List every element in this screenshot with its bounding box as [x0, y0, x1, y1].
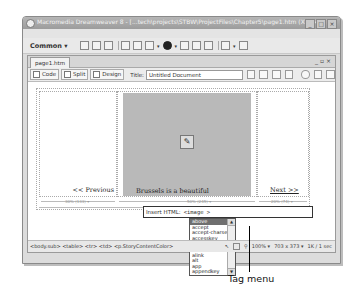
previous-link[interactable]: << Previous [73, 186, 114, 194]
image-placeholder-icon: ✎ [180, 135, 194, 149]
email-link-icon[interactable] [92, 41, 101, 50]
div-icon[interactable] [133, 41, 142, 50]
callout-label: Tag menu [228, 273, 274, 284]
table-cell-middle[interactable]: ✎ Brussels is a beautiful [117, 91, 257, 197]
maximize-button[interactable]: □ [316, 19, 326, 29]
design-canvas[interactable]: << Previous ✎ Brussels is a beautiful Ne… [28, 82, 335, 240]
insert-bar: Common ▾ ▾ ▾ ▾ [23, 38, 340, 54]
template-icon[interactable] [221, 41, 230, 50]
code-view-button[interactable]: Code [30, 69, 59, 80]
app-logo-icon [26, 19, 35, 28]
tag-menu-item[interactable]: appendkey [190, 269, 227, 275]
chevron-down-icon[interactable]: ▾ [157, 43, 160, 49]
server-include-icon[interactable] [192, 41, 201, 50]
status-bar: <body.sub> <table> <tr> <td> <p.StoryCon… [28, 240, 335, 252]
menu-bar: File Edit View Insert Modify Text Comman… [23, 29, 340, 38]
refresh-icon[interactable] [301, 70, 310, 79]
document-tab[interactable]: page1.htm [30, 57, 70, 68]
chevron-down-icon[interactable]: ▾ [175, 43, 178, 49]
hand-tool-icon[interactable] [233, 243, 240, 250]
table-icon[interactable] [121, 41, 130, 50]
document-toolbar: Code Split Design Title: Untitled Docume… [28, 68, 335, 82]
named-anchor-icon[interactable] [104, 41, 113, 50]
document-window: page1.htm _ ▫ × Code Split Design Title:… [27, 55, 336, 253]
minimize-button[interactable]: _ [305, 19, 315, 29]
document-window-controls[interactable]: _ ▫ × [315, 57, 331, 64]
preview-browser-icon[interactable] [259, 70, 268, 79]
design-view-icon [93, 71, 100, 78]
date-icon[interactable] [180, 41, 189, 50]
scroll-up-icon[interactable]: ▲ [228, 219, 235, 226]
zoom-tool-icon[interactable]: ⚲ [244, 241, 248, 252]
media-icon[interactable] [163, 41, 172, 50]
title-bar: Macromedia Dreamweaver 8 - [...tech\proj… [23, 17, 340, 29]
callout-line [249, 226, 250, 272]
split-view-icon [64, 71, 71, 78]
comment-icon[interactable] [204, 41, 213, 50]
tag-selector[interactable]: <body.sub> <table> <tr> <td> <p.StoryCon… [30, 241, 173, 252]
tag-chooser-icon[interactable] [239, 41, 248, 50]
toolbar-divider [218, 41, 219, 50]
dreamweaver-window: Macromedia Dreamweaver 8 - [...tech\proj… [22, 16, 341, 264]
split-view-button[interactable]: Split [61, 69, 88, 80]
select-tool-icon[interactable]: ↖ [225, 241, 229, 252]
insert-html-label: Insert HTML: [146, 209, 181, 215]
insert-html-input[interactable]: <image > [184, 209, 211, 215]
table-cell-right[interactable]: Next >> [257, 91, 309, 197]
validate-markup-icon[interactable] [272, 70, 281, 79]
view-options-icon[interactable] [314, 70, 323, 79]
title-input[interactable]: Untitled Document [146, 70, 243, 80]
chevron-down-icon[interactable]: ▾ [233, 43, 236, 49]
visual-aids-icon[interactable] [326, 70, 335, 79]
image-icon[interactable] [145, 41, 154, 50]
close-button[interactable]: × [327, 19, 337, 29]
caption-text: Brussels is a beautiful [136, 187, 209, 195]
insert-html-popup[interactable]: Insert HTML:<image > [143, 206, 313, 218]
title-label: Title: [130, 72, 144, 78]
check-browser-icon[interactable] [285, 70, 294, 79]
table-cell-left[interactable]: << Previous [39, 91, 117, 197]
design-view-button[interactable]: Design [90, 69, 124, 80]
layout-table[interactable]: << Previous ✎ Brussels is a beautiful Ne… [36, 88, 310, 210]
window-size-select[interactable]: 703 x 373 ▾ [274, 241, 303, 252]
toolbar-divider [118, 41, 119, 50]
window-title: Macromedia Dreamweaver 8 - [...tech\proj… [37, 18, 326, 25]
hyperlink-icon[interactable] [80, 41, 89, 50]
width-label-mid[interactable]: 50% (245) ▾ [187, 199, 211, 204]
download-size: 1K / 1 sec [307, 241, 332, 252]
insert-category-select[interactable]: Common ▾ [30, 42, 80, 50]
image-placeholder[interactable]: ✎ [123, 93, 251, 196]
code-view-icon [33, 71, 40, 78]
file-management-icon[interactable] [247, 70, 256, 79]
next-link[interactable]: Next >> [270, 186, 299, 194]
width-label-right[interactable]: 20% (74) ▾ [271, 199, 293, 204]
width-label-left[interactable]: 30% (133) ▾ [65, 199, 89, 204]
zoom-select[interactable]: 100% ▾ [252, 241, 270, 252]
